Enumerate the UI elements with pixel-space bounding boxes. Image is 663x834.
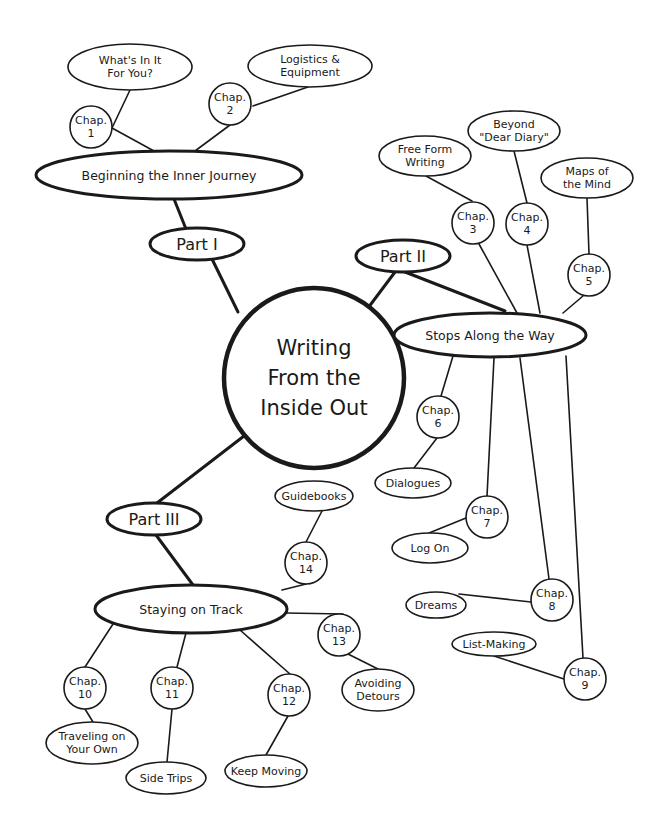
connector-line [85, 624, 113, 667]
node-label: Keep Moving [231, 765, 301, 778]
node-label: Part II [380, 247, 426, 266]
diagram-nodes: WritingFrom theInside OutPart IPart IIPa… [36, 44, 633, 794]
connector-line [240, 630, 290, 674]
node-label: Chap. [69, 675, 101, 688]
connector-line [177, 633, 186, 667]
connector-line [167, 709, 172, 762]
node-label: 4 [524, 224, 531, 237]
node-label: 6 [435, 417, 442, 430]
node-part1: Part I [150, 228, 244, 260]
central-topic: WritingFrom theInside Out [224, 288, 404, 468]
node-label: 13 [332, 635, 346, 648]
node-label: Chap. [75, 114, 107, 127]
node-t4: Beyond"Dear Diary" [468, 111, 560, 151]
node-t6: Dialogues [375, 468, 451, 498]
node-label: Chap. [536, 587, 568, 600]
node-ch1: Chap.1 [70, 106, 112, 148]
node-ch11: Chap.11 [151, 667, 193, 709]
node-label: What's In It [99, 54, 162, 67]
node-label: Chap. [457, 210, 489, 223]
connector-line [587, 198, 589, 254]
node-part3: Part III [107, 503, 201, 535]
node-t2: Logistics &Equipment [248, 45, 372, 87]
node-label: Chap. [290, 550, 322, 563]
connector-line [156, 535, 193, 585]
node-label: 7 [484, 517, 491, 530]
node-label: Maps of [565, 165, 609, 178]
node-t14: Guidebooks [275, 481, 353, 511]
connector-line [426, 176, 472, 201]
node-label: Chap. [273, 682, 305, 695]
node-label: Chap. [569, 666, 601, 679]
node-label: Dreams [415, 599, 458, 612]
node-label: 2 [227, 104, 234, 117]
node-label: 9 [582, 679, 589, 692]
connector-line [157, 436, 244, 503]
node-label: Chap. [422, 404, 454, 417]
node-label: 3 [470, 223, 477, 236]
node-label: Stops Along the Way [425, 328, 555, 343]
node-label: Equipment [280, 66, 340, 79]
node-label: Inside Out [260, 396, 367, 420]
node-label: Logistics & [280, 53, 340, 66]
mind-map-diagram: WritingFrom theInside OutPart IPart IIPa… [0, 0, 663, 834]
node-label: Chap. [471, 504, 503, 517]
node-label: Part III [129, 510, 180, 529]
node-ch5: Chap.5 [568, 254, 610, 296]
node-label: 10 [78, 688, 92, 701]
node-t13: AvoidingDetours [342, 669, 414, 711]
node-label: 12 [282, 695, 296, 708]
node-label: Dialogues [386, 477, 441, 490]
node-ch12: Chap.12 [268, 674, 310, 716]
connector-line [494, 656, 564, 679]
node-sec2: Stops Along the Way [394, 313, 586, 357]
node-t5: Maps ofthe Mind [541, 158, 633, 198]
node-ch8: Chap.8 [531, 579, 573, 621]
node-label: "Dear Diary" [479, 131, 548, 144]
connector-line [212, 259, 238, 312]
connector-line [306, 511, 322, 542]
node-ch7: Chap.7 [466, 496, 508, 538]
node-label: For You? [107, 67, 153, 80]
connector-line [174, 199, 186, 229]
connector-line [520, 358, 549, 579]
connector-line [282, 584, 306, 590]
node-label: Chap. [573, 262, 605, 275]
node-label: Writing [405, 156, 444, 169]
node-label: Staying on Track [139, 602, 243, 617]
node-part2: Part II [356, 240, 450, 272]
node-ch4: Chap.4 [506, 203, 548, 245]
connector-line [429, 518, 466, 533]
node-t11: Side Trips [126, 762, 206, 794]
node-ch14: Chap.14 [285, 542, 327, 584]
node-label: From the [267, 366, 360, 390]
node-label: Beyond [493, 118, 535, 131]
connector-line [563, 296, 583, 313]
node-t1: What's In ItFor You? [68, 44, 192, 90]
node-label: Writing [277, 336, 352, 360]
node-t7: Log On [392, 533, 468, 563]
node-t9: List-Making [452, 632, 536, 656]
node-ch6: Chap.6 [417, 396, 459, 438]
node-label: Log On [411, 542, 450, 555]
connector-line [487, 358, 494, 496]
node-label: 8 [549, 600, 556, 613]
node-t8: Dreams [406, 592, 466, 618]
node-ch3: Chap.3 [452, 202, 494, 244]
node-label: Detours [356, 690, 400, 703]
node-ch2: Chap.2 [209, 83, 251, 125]
node-label: 14 [299, 563, 313, 576]
node-label: Traveling on [58, 730, 126, 743]
connector-line [195, 125, 230, 151]
node-sec1: Beginning the Inner Journey [36, 151, 302, 199]
node-label: the Mind [563, 178, 611, 191]
connector-line [112, 128, 154, 151]
node-label: Your Own [65, 743, 118, 756]
node-sec3: Staying on Track [95, 585, 287, 633]
connector-line [266, 716, 288, 755]
connector-line [253, 87, 308, 106]
connector-line [441, 356, 453, 396]
node-label: List-Making [463, 638, 526, 651]
node-label: Chap. [214, 91, 246, 104]
connector-line [527, 245, 540, 313]
